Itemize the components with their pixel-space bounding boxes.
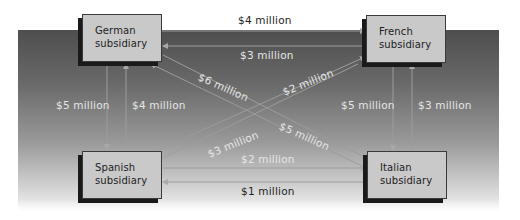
flow-label-italian-to-french: $3 million [418, 99, 472, 111]
flow-label-german-to-french: $4 million [238, 14, 292, 26]
flow-label-french-to-italian: $5 million [341, 99, 395, 111]
node-french-subsidiary: French subsidiary [366, 15, 446, 63]
flow-label-french-to-german: $3 million [240, 49, 294, 61]
node-german-subsidiary: German subsidiary [82, 14, 162, 62]
flow-label-german-to-spanish: $5 million [56, 99, 110, 111]
flow-label-spanish-to-italian: $2 million [241, 153, 295, 165]
node-label: Spanish subsidiary [95, 161, 147, 187]
node-spanish-subsidiary: Spanish subsidiary [82, 151, 162, 199]
node-label: French subsidiary [379, 25, 431, 51]
node-label: Italian subsidiary [380, 161, 432, 187]
flow-label-italian-to-spanish: $1 million [241, 185, 295, 197]
node-italian-subsidiary: Italian subsidiary [367, 151, 447, 199]
flow-label-spanish-to-german: $4 million [132, 99, 186, 111]
node-label: German subsidiary [95, 24, 147, 50]
arrow-spanish-to-french [158, 57, 365, 150]
